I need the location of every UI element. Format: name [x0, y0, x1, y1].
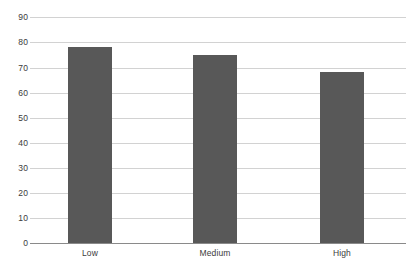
bar-high [320, 72, 364, 243]
xtick-label-high: High [287, 248, 397, 258]
bar-low [68, 47, 112, 243]
bar-medium [193, 55, 237, 243]
xtick-label-low: Low [35, 248, 145, 258]
bar-chart: 90 80 70 60 50 40 30 20 10 0 Low Medium … [0, 0, 416, 272]
xtick-label-medium: Medium [160, 248, 270, 258]
chart-bars [0, 0, 416, 272]
